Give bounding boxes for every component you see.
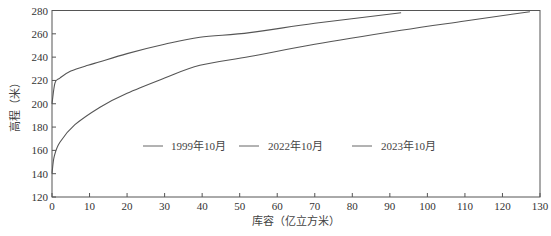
x-tick-label: 100 [419, 200, 436, 212]
x-tick-label: 110 [457, 200, 474, 212]
y-tick-label: 220 [32, 74, 49, 86]
x-tick-label: 20 [122, 200, 134, 212]
x-tick-label: 70 [309, 200, 321, 212]
legend-label: 2023年10月 [381, 139, 436, 152]
y-tick-label: 280 [32, 5, 49, 17]
y-tick-label: 200 [32, 98, 49, 110]
y-tick-label: 260 [32, 28, 49, 40]
legend-label: 1999年10月 [171, 139, 226, 152]
x-tick-label: 40 [197, 200, 209, 212]
y-tick-label: 120 [32, 191, 49, 203]
legend-label: 2022年10月 [268, 139, 323, 152]
x-axis: 0102030405060708090100110120130 [49, 193, 549, 212]
elevation-capacity-chart: 120140160180200220240260280 010203040506… [0, 0, 551, 236]
x-axis-title: 库容（亿立方米） [252, 214, 340, 228]
legend: 1999年10月2022年10月2023年10月 [143, 139, 436, 152]
x-tick-label: 0 [49, 200, 55, 212]
x-tick-label: 90 [384, 200, 396, 212]
x-tick-label: 10 [84, 200, 96, 212]
y-tick-label: 240 [32, 51, 49, 63]
upper-curve [52, 13, 401, 104]
x-tick-label: 80 [347, 200, 359, 212]
x-tick-label: 30 [159, 200, 171, 212]
x-tick-label: 120 [494, 200, 511, 212]
y-tick-label: 180 [32, 121, 49, 133]
x-tick-label: 130 [532, 200, 549, 212]
y-tick-label: 140 [32, 168, 49, 180]
y-tick-label: 160 [32, 144, 49, 156]
y-axis-title: 高程（米） [8, 77, 22, 132]
legend-item: 2022年10月 [239, 139, 323, 152]
legend-item: 1999年10月 [143, 139, 226, 152]
x-tick-label: 50 [234, 200, 246, 212]
plot-frame [52, 11, 540, 198]
plot-border [52, 11, 540, 198]
x-tick-label: 60 [272, 200, 284, 212]
legend-item: 2023年10月 [352, 139, 436, 152]
